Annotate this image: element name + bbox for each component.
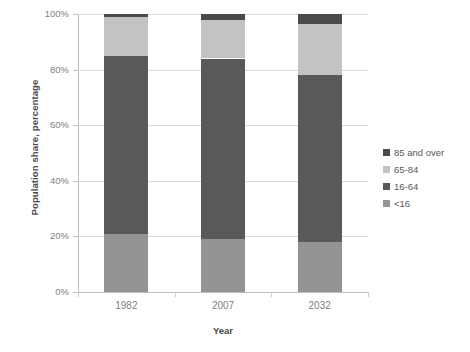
plot-area (78, 14, 368, 292)
x-tick-mark (78, 292, 79, 297)
x-axis-title: Year (78, 325, 368, 336)
x-tick-label: 2007 (188, 300, 258, 311)
bar-stack[interactable] (201, 14, 245, 292)
gridline (78, 292, 368, 293)
chart-container: Population share, percentage 100%80%60%4… (0, 0, 470, 352)
bar-segment[interactable] (298, 14, 342, 24)
legend-item[interactable]: 85 and over (383, 144, 469, 161)
y-tick-label: 60% (27, 120, 69, 130)
x-tick-label: 2032 (285, 300, 355, 311)
bar-segment[interactable] (104, 234, 148, 292)
x-tick-mark (175, 292, 176, 297)
legend-swatch-icon (383, 149, 390, 156)
legend-item[interactable]: 16-64 (383, 178, 469, 195)
x-tick-mark (368, 292, 369, 297)
x-tick-mark (271, 292, 272, 297)
bar-segment[interactable] (104, 14, 148, 17)
bar-segment[interactable] (104, 17, 148, 56)
bar-group[interactable] (298, 14, 342, 292)
legend-swatch-icon (383, 166, 390, 173)
bar-stack[interactable] (298, 14, 342, 292)
legend-label: 65-84 (394, 165, 418, 175)
bar-segment[interactable] (298, 75, 342, 242)
legend-label: 16-64 (394, 182, 418, 192)
y-tick-label: 0% (27, 287, 69, 297)
bar-segment[interactable] (298, 242, 342, 292)
y-tick-label: 40% (27, 176, 69, 186)
legend-swatch-icon (383, 183, 390, 190)
legend-swatch-icon (383, 200, 390, 207)
legend: 85 and over65-8416-64<16 (383, 144, 469, 212)
y-axis-line (78, 14, 79, 292)
bar-segment[interactable] (201, 14, 245, 20)
legend-item[interactable]: 65-84 (383, 161, 469, 178)
legend-label: <16 (394, 199, 410, 209)
bar-segment[interactable] (201, 20, 245, 59)
bar-group[interactable] (104, 14, 148, 292)
legend-label: 85 and over (394, 148, 444, 158)
bar-group[interactable] (201, 14, 245, 292)
bar-segment[interactable] (201, 59, 245, 240)
bar-stack[interactable] (104, 14, 148, 292)
bar-segment[interactable] (298, 24, 342, 75)
y-tick-label: 20% (27, 231, 69, 241)
bar-segment[interactable] (104, 56, 148, 234)
legend-item[interactable]: <16 (383, 195, 469, 212)
x-tick-label: 1982 (91, 300, 161, 311)
y-tick-label: 100% (27, 9, 69, 19)
bar-segment[interactable] (201, 239, 245, 292)
y-tick-label: 80% (27, 65, 69, 75)
